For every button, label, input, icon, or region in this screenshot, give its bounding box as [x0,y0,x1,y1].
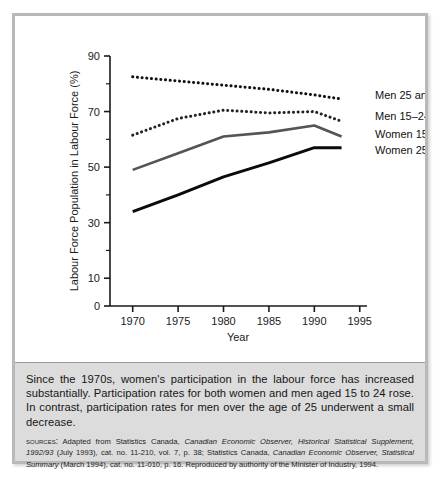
x-tick-label: 1995 [347,315,371,327]
series-label-3: Women 25 and over [375,144,425,156]
y-tick-label: 90 [88,50,100,62]
x-tick-label: 1985 [257,315,281,327]
chart-plot-area: 01030507090 197019751980198519901995 Men… [15,16,425,362]
x-tick-label: 1990 [302,315,326,327]
sources-label: Sources: [26,437,58,446]
x-axis-title: Year [227,331,250,343]
y-axis-title: Labour Force Population in Labour Force … [68,71,80,292]
series-label-0: Men 25 and over [375,89,425,101]
series-label-2: Women 15–24 [375,128,425,140]
line-chart: 01030507090 197019751980198519901995 Men… [15,16,425,362]
x-tick-label: 1970 [120,315,144,327]
y-tick-label: 10 [88,272,100,284]
figure-frame: 01030507090 197019751980198519901995 Men… [12,13,428,464]
sources-part-1: Adapted from Statistics Canada, [58,437,185,446]
y-tick-label: 50 [88,161,100,173]
series-label-1: Men 15–24 [375,110,425,122]
sources-part-3: (March 1994), cat. no. 11-010, p. 16. Re… [59,460,379,469]
figure-caption: Since the 1970s, women's participation i… [26,372,414,429]
sources-part-2: (July 1993), cat. no. 11-210, vol. 7, p.… [53,448,272,457]
x-tick-label: 1975 [166,315,190,327]
y-tick-label: 70 [88,106,100,118]
figure-sources: Sources: Adapted from Statistics Canada,… [26,436,414,470]
figure-caption-block: Since the 1970s, women's participation i… [15,362,425,461]
y-tick-label: 0 [94,300,100,312]
y-tick-label: 30 [88,217,100,229]
x-tick-label: 1980 [211,315,235,327]
